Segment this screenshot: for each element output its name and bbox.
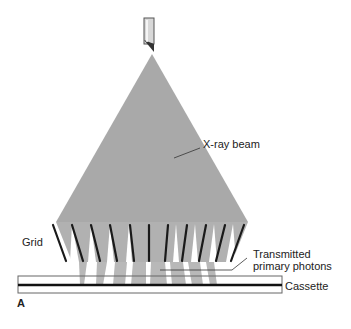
grid-label: Grid bbox=[22, 236, 43, 248]
cassette bbox=[18, 276, 282, 293]
xray-tube-icon bbox=[144, 18, 154, 52]
beam-label: X-ray beam bbox=[203, 138, 260, 150]
panel-label: A bbox=[17, 297, 25, 309]
transmitted-label-line1: Transmitted bbox=[253, 248, 311, 260]
transmitted-label-line2: primary photons bbox=[253, 260, 332, 272]
cassette-label: Cassette bbox=[285, 280, 328, 292]
